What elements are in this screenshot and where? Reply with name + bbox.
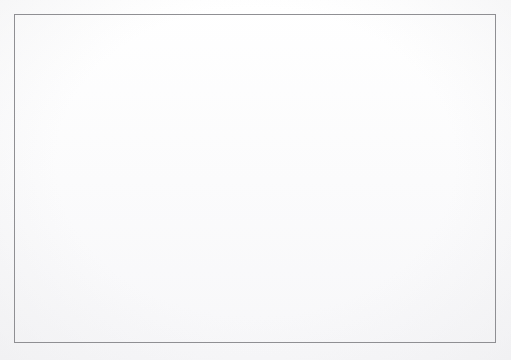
word-web-screenshot: [0, 0, 511, 360]
bubble-outlines-layer: [0, 0, 511, 360]
word-web-diagram: [0, 0, 511, 360]
